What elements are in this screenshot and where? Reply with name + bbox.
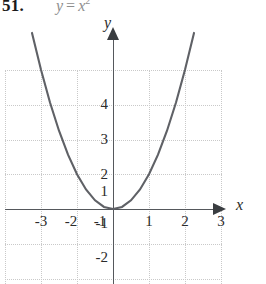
parabola-curve [0,0,266,284]
coordinate-graph: x y -3 -2 -1 1 2 3 4 3 2 1 -1 -2 [0,0,266,284]
parabola-path [32,33,194,209]
